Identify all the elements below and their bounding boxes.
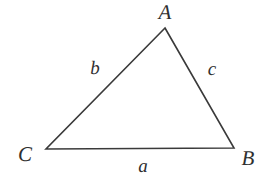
- vertex-label-a: A: [158, 2, 171, 23]
- side-label-c: c: [208, 60, 217, 79]
- triangle-drawing: [0, 0, 268, 182]
- side-label-a: a: [138, 157, 148, 176]
- figure-background: [0, 0, 268, 182]
- vertex-label-b: B: [241, 148, 254, 169]
- side-label-b: b: [90, 59, 100, 78]
- geometry-figure: A B C a b c: [0, 0, 268, 182]
- vertex-label-c: C: [18, 144, 32, 165]
